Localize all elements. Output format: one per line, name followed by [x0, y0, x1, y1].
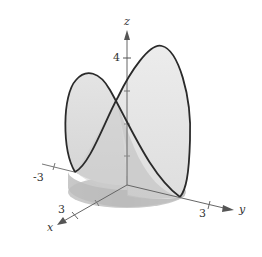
y-axis-label: y [239, 204, 245, 215]
y-tick-label: 3 [199, 208, 206, 219]
x-tick-label: 3 [58, 204, 65, 215]
neg-y-tick-label: -3 [33, 172, 44, 183]
z-axis-arrow [124, 30, 130, 40]
x-axis-label: x [47, 222, 53, 233]
z-axis-label: z [124, 16, 130, 27]
y-axis-arrow [222, 205, 234, 212]
x-axis-arrow [57, 217, 67, 225]
diagram-svg [0, 0, 262, 257]
z-tick-label: 4 [113, 52, 120, 63]
